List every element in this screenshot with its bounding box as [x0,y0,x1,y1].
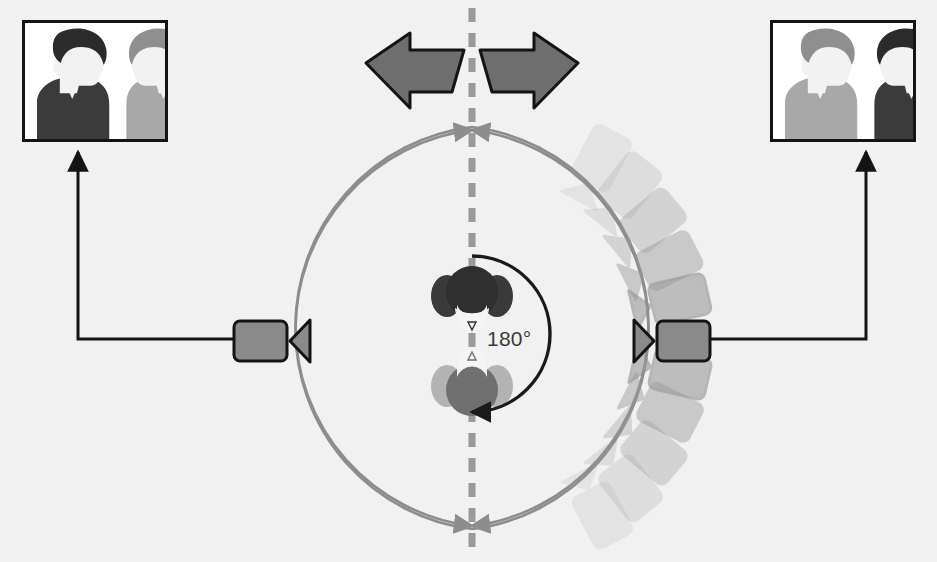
camera-left-body [234,321,287,361]
shot-from-camera-left[interactable] [22,20,168,142]
connector-left [78,152,246,339]
break-arrow-left-head [366,33,464,108]
break-arrow-right-head [480,33,578,108]
inset-right-image [773,23,913,139]
inset-left-image [25,23,165,139]
subject-top-head [446,266,498,318]
angle-label: 180° [487,327,531,351]
camera-right-body [657,321,710,361]
connector-right [700,152,866,339]
travel-arc-right-down [296,127,472,526]
shot-from-camera-right[interactable] [770,20,916,142]
inset-left-gap [111,23,119,139]
camera-left-lens [290,320,310,362]
diagram-canvas: 180° [0,0,937,562]
subject-bottom-head [446,364,498,416]
travel-arc-left [296,130,472,529]
subject-top [431,266,513,333]
inset-right-gap [859,23,867,139]
